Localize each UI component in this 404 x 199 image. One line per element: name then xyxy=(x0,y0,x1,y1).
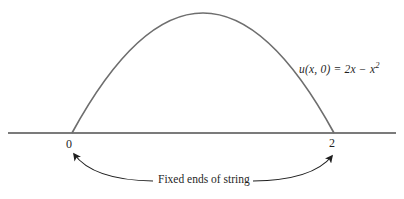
initial-condition-equation: u(x, 0) = 2x − x2 xyxy=(299,60,380,75)
right-end-tick-label: 2 xyxy=(329,136,335,151)
fixed-ends-caption: Fixed ends of string xyxy=(158,173,250,185)
right-leader-arrow xyxy=(253,156,332,181)
equation-main: u(x, 0) = 2x − x xyxy=(299,63,375,75)
equation-exponent: 2 xyxy=(375,60,379,70)
diagram-canvas xyxy=(0,0,404,199)
left-leader-arrow xyxy=(74,154,153,181)
left-end-tick-label: 0 xyxy=(66,137,72,152)
string-displacement-diagram: 0 2 u(x, 0) = 2x − x2 Fixed ends of stri… xyxy=(0,0,404,199)
displacement-curve xyxy=(72,13,334,133)
